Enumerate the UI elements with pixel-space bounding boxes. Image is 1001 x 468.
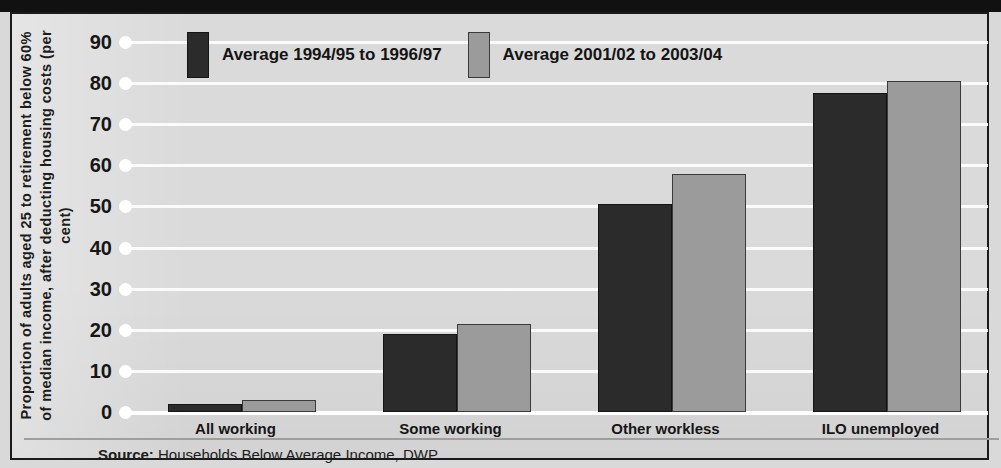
legend-label: Average 1994/95 to 1996/97 [222, 45, 442, 65]
bar [672, 174, 746, 412]
y-axis-tick-label: 70 [90, 113, 112, 136]
y-axis-tick-label: 90 [90, 31, 112, 54]
axis-tick-dot-90 [119, 36, 132, 49]
bar [813, 93, 887, 412]
axis-tick-dot-10 [119, 365, 132, 378]
chart-figure: Proportion of adults aged 25 to retireme… [0, 0, 1001, 468]
y-axis-tick-label: 0 [101, 401, 112, 424]
y-axis-tick-label: 50 [90, 195, 112, 218]
plot-area: 9080706050403020100All workingSome worki… [128, 42, 988, 412]
axis-tick-dot-80 [119, 77, 132, 90]
source-divider [24, 438, 999, 440]
axis-tick-dot-50 [119, 200, 132, 213]
x-axis-category-label: ILO unemployed [773, 420, 988, 437]
source-label: Source: [98, 446, 154, 463]
source-note: Source: Households Below Average Income,… [98, 446, 438, 463]
bar-group [813, 42, 961, 412]
axis-tick-dot-60 [119, 159, 132, 172]
bar [383, 334, 457, 412]
chart-legend: Average 1994/95 to 1996/97Average 2001/0… [187, 32, 722, 78]
legend-swatch [468, 32, 490, 78]
x-axis-category-label: Some working [343, 420, 558, 437]
legend-label: Average 2001/02 to 2003/04 [503, 45, 723, 65]
bar [168, 404, 242, 412]
y-axis-tick-label: 60 [90, 154, 112, 177]
axis-tick-dot-0 [119, 406, 132, 419]
bar [457, 324, 531, 412]
axis-tick-dot-20 [119, 324, 132, 337]
y-axis-tick-label: 40 [90, 236, 112, 259]
bar-group [598, 42, 746, 412]
y-axis-tick-label: 80 [90, 72, 112, 95]
legend-item: Average 2001/02 to 2003/04 [468, 32, 723, 78]
chart-paper: Proportion of adults aged 25 to retireme… [12, 14, 987, 458]
bar [242, 400, 316, 412]
axis-tick-dot-70 [119, 118, 132, 131]
legend-item: Average 1994/95 to 1996/97 [187, 32, 442, 78]
bar-group [168, 42, 316, 412]
top-black-band [0, 0, 1001, 12]
axis-tick-dot-40 [119, 242, 132, 255]
y-axis-title: Proportion of adults aged 25 to retireme… [17, 25, 76, 425]
y-axis-tick-label: 30 [90, 277, 112, 300]
source-value: Households Below Average Income, DWP [158, 446, 438, 463]
y-axis-tick-label: 20 [90, 318, 112, 341]
bar [887, 81, 961, 412]
axis-tick-dot-30 [119, 283, 132, 296]
x-axis-category-label: Other workless [558, 420, 773, 437]
bar [598, 204, 672, 412]
legend-swatch [187, 32, 209, 78]
bar-group [383, 42, 531, 412]
x-axis-category-label: All working [128, 420, 343, 437]
y-axis-tick-label: 10 [90, 359, 112, 382]
